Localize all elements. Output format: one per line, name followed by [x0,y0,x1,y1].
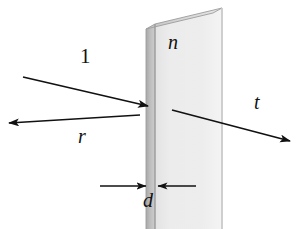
refractive-index-label: n [168,32,178,52]
incident-ray [23,77,148,106]
transmitted-ray-label: t [254,92,260,112]
reflected-ray-label: r [78,126,86,146]
thickness-label: d [143,190,153,210]
optics-slab-figure: 1 n t r d [0,0,307,229]
incident-ray-label: 1 [80,46,91,67]
reflected-ray [9,115,140,123]
figure-canvas [0,0,307,229]
dielectric-slab [146,8,222,229]
slab-front-face [155,8,222,229]
